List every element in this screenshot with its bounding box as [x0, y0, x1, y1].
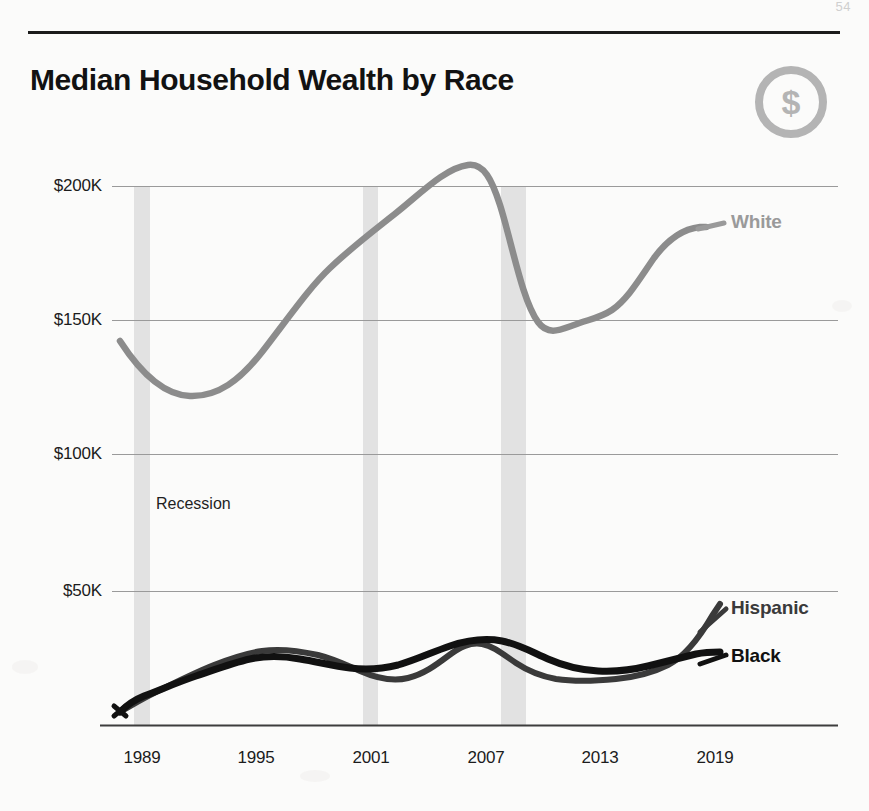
leader-line-black	[700, 655, 726, 664]
series-label-hispanic: Hispanic	[731, 597, 809, 619]
series-label-black: Black	[731, 645, 781, 667]
x-tick-label: 2013	[581, 748, 618, 768]
x-tick-label: 1995	[237, 748, 274, 768]
y-tick-label: $100K	[16, 444, 102, 464]
series-line-white	[120, 165, 706, 396]
x-tick-label: 2007	[467, 748, 504, 768]
recession-annotation: Recession	[156, 495, 231, 513]
x-tick-label: 2001	[352, 748, 389, 768]
y-tick-label: $150K	[16, 310, 102, 330]
recession-band	[363, 186, 378, 726]
y-tick-label: $200K	[16, 176, 102, 196]
wealth-line-chart	[0, 0, 869, 811]
x-tick-label: 2019	[696, 748, 733, 768]
x-tick-label: 1989	[123, 748, 160, 768]
series-label-white: White	[731, 211, 782, 233]
recession-band	[134, 186, 150, 726]
chart-page: 54 Median Household Wealth by Race $	[0, 0, 869, 811]
y-tick-label: $50K	[16, 581, 102, 601]
